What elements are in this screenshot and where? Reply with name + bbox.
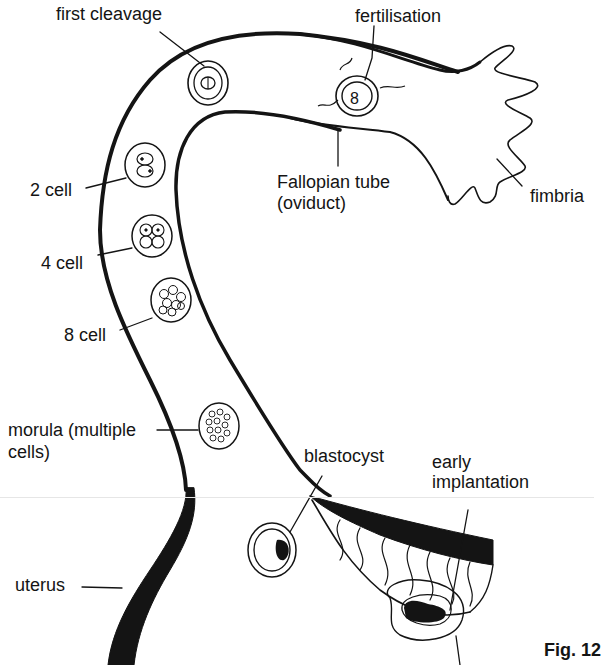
figure-caption: Fig. 12 <box>544 640 601 660</box>
label-4-cell: 4 cell <box>41 253 83 273</box>
label-morula-cells: cells) <box>8 442 50 462</box>
leader-uterus <box>82 587 122 588</box>
two-cell-embryo <box>125 143 165 187</box>
blastocyst-embryo <box>248 523 296 577</box>
label-implantation: implantation <box>432 472 529 492</box>
endometrium-right-edge <box>470 565 493 612</box>
label-blastocyst: blastocyst <box>304 446 384 466</box>
four-cell-embryo <box>132 215 172 257</box>
leader-blastocyst <box>290 476 322 532</box>
tube-upper-edge <box>300 34 480 72</box>
implantation-embryo <box>404 601 446 623</box>
label-early: early <box>432 452 471 472</box>
scan-artifact-line <box>0 497 594 498</box>
morula-embryo <box>199 403 239 449</box>
first-cleavage-egg <box>188 61 228 105</box>
label-2-cell: 2 cell <box>30 180 72 200</box>
label-8-cell: 8 cell <box>64 325 106 345</box>
leader-first-cleavage <box>160 32 204 66</box>
label-uterus: uterus <box>15 575 65 595</box>
oviduct-outer-wall <box>100 33 458 490</box>
label-first-cleavage: first cleavage <box>56 4 162 24</box>
svg-text:8: 8 <box>350 90 359 107</box>
uterus-wall <box>108 488 195 665</box>
label-fallopian-tube: Fallopian tube <box>277 172 390 192</box>
oviduct-inner-wall <box>176 112 340 496</box>
fertilisation-egg: 8 <box>318 58 405 116</box>
leader-fertilisation <box>365 26 374 80</box>
label-oviduct: (oviduct) <box>277 193 346 213</box>
label-morula: morula (multiple <box>8 420 136 440</box>
label-fertilisation: fertilisation <box>355 6 441 26</box>
eight-cell-embryo <box>151 278 191 322</box>
label-fimbria: fimbria <box>530 186 584 206</box>
leader-bottom <box>456 636 460 665</box>
